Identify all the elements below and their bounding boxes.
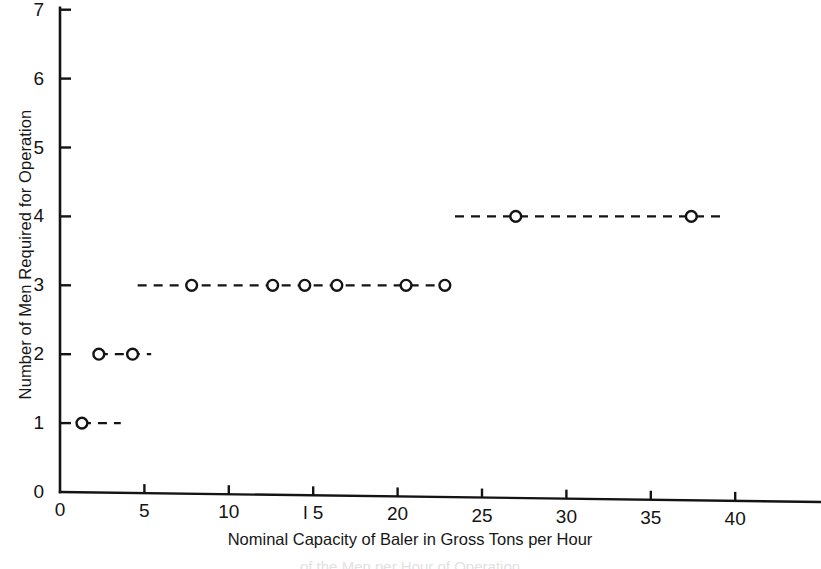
- y-tick-label-4: 4: [18, 206, 44, 225]
- x-tick-label-35: 35: [629, 508, 673, 527]
- data-point-marker: [331, 280, 342, 291]
- data-point-marker: [186, 280, 197, 291]
- y-tick-label-1: 1: [18, 413, 44, 432]
- data-point-marker: [439, 280, 450, 291]
- x-tick-label-40: 40: [713, 509, 757, 528]
- data-point-marker: [299, 280, 310, 291]
- chart-figure: Number of Men Required for Operation 012…: [0, 0, 821, 569]
- axes-group: [60, 8, 821, 502]
- bottom-caption-fragment: of the Men per Hour of Operation: [60, 558, 760, 569]
- data-point-marker: [93, 349, 104, 360]
- x-tick-label-0: 0: [38, 500, 82, 519]
- x-axis-label: Nominal Capacity of Baler in Gross Tons …: [60, 530, 760, 549]
- ticks-group: [60, 10, 735, 501]
- x-axis-line: [60, 492, 821, 502]
- x-tick-label-5: 5: [122, 501, 166, 520]
- data-point-marker: [510, 211, 521, 222]
- data-point-marker: [686, 211, 697, 222]
- y-tick-label-3: 3: [18, 275, 44, 294]
- y-tick-label-5: 5: [18, 138, 44, 157]
- y-tick-label-6: 6: [18, 69, 44, 88]
- data-point-marker: [77, 418, 88, 429]
- x-tick-label-25: 25: [460, 506, 504, 525]
- x-tick-label-20: 20: [376, 504, 420, 523]
- plot-canvas: [0, 0, 821, 569]
- x-tick-label-10: 10: [207, 502, 251, 521]
- data-point-marker: [267, 280, 278, 291]
- data-point-marker: [127, 349, 138, 360]
- y-tick-label-7: 7: [18, 0, 44, 19]
- data-point-marker: [401, 280, 412, 291]
- y-tick-label-0: 0: [18, 482, 44, 501]
- y-tick-label-2: 2: [18, 344, 44, 363]
- x-tick-label-30: 30: [544, 507, 588, 526]
- data-series-group: [77, 211, 726, 429]
- x-tick-label-15: l 5: [291, 503, 335, 522]
